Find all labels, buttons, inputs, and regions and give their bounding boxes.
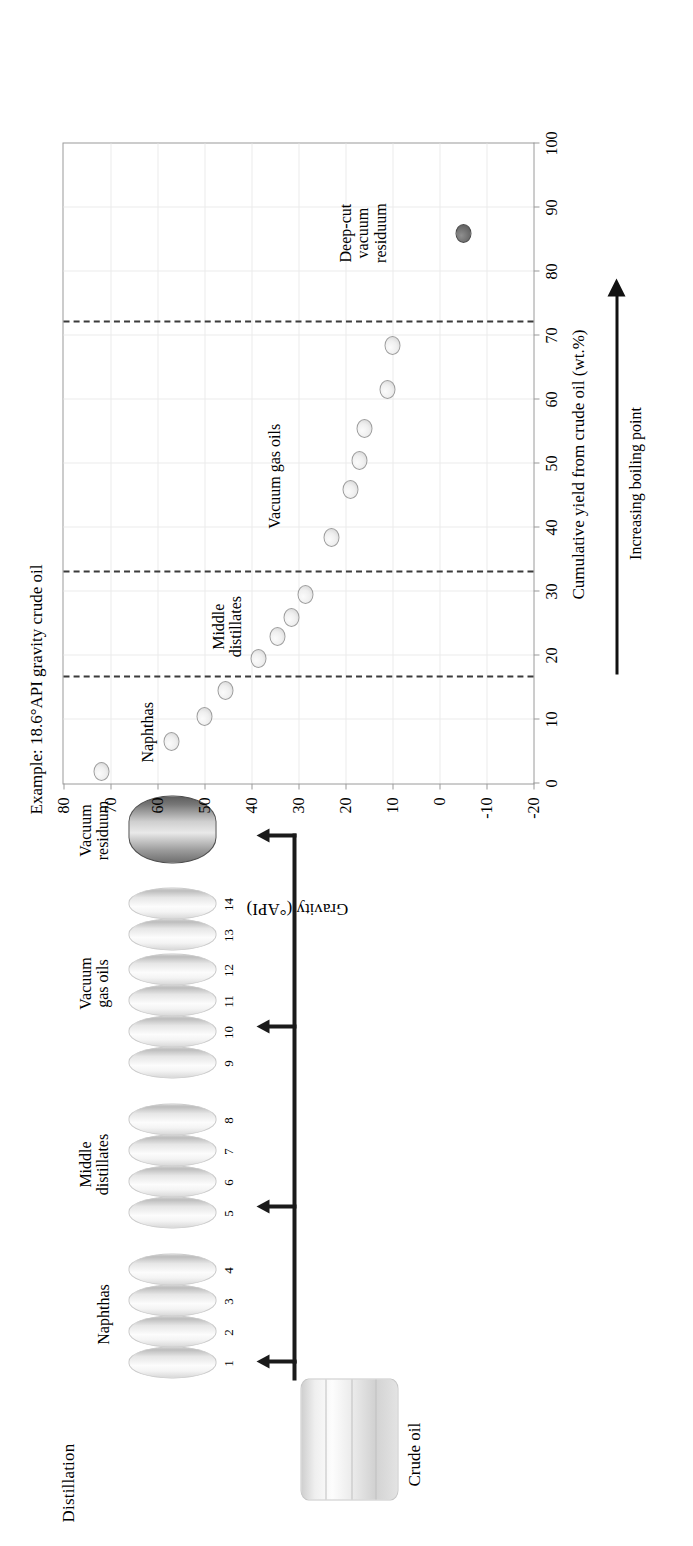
x-axis-tick	[533, 654, 539, 655]
drum-number-8: 8	[220, 1105, 236, 1135]
data-point	[250, 649, 266, 668]
drum-1	[128, 1346, 216, 1378]
x-axis-tick	[533, 590, 539, 591]
y-axis-tick	[157, 783, 158, 789]
x-axis-tick-label: 60	[542, 391, 560, 407]
data-point	[196, 706, 212, 725]
chart-annotation: Deep-cut vacuum residuum	[336, 203, 389, 263]
data-point	[342, 479, 358, 498]
x-axis-tick-label: 0	[542, 779, 560, 787]
boiling-point-label: Increasing boiling point	[626, 407, 644, 560]
y-axis-tick	[110, 783, 111, 789]
drum-number-3: 3	[220, 1286, 236, 1316]
riser-arrow-2	[256, 1199, 269, 1213]
y-axis-tick-label: 10	[383, 797, 401, 813]
grid-line-horizontal	[110, 143, 111, 783]
x-axis-title: Cumulative yield from crude oil (wt.%)	[568, 329, 588, 599]
y-axis-tick-label: 60	[148, 797, 166, 813]
group-label-middle-distillates: Middle distillates	[76, 1088, 111, 1240]
boiling-point-arrow-head	[607, 278, 625, 296]
data-point	[283, 607, 299, 626]
y-axis-tick	[533, 783, 534, 789]
drum-number-5: 5	[220, 1198, 236, 1228]
drum-7	[128, 1134, 216, 1166]
distillation-schematic: Distillation 1 2 3 4 Naphthas	[0, 928, 693, 1528]
drum-6	[128, 1165, 216, 1197]
drum-10	[128, 1015, 216, 1047]
x-axis-tick-label: 70	[542, 327, 560, 343]
riser-pipe-1	[268, 1359, 296, 1363]
chart-plot-area: 010203040506070809010080706050403020100-…	[62, 142, 534, 784]
data-point	[379, 380, 395, 399]
data-point	[455, 223, 471, 242]
y-axis-tick	[486, 783, 487, 789]
drum-number-6: 6	[220, 1167, 236, 1197]
drum-2	[128, 1315, 216, 1347]
figure-page: Distillation 1 2 3 4 Naphthas	[0, 0, 693, 1546]
grid-line-horizontal	[157, 143, 158, 783]
x-axis-tick	[533, 718, 539, 719]
grid-line-horizontal	[486, 143, 487, 783]
x-axis-tick	[533, 142, 539, 143]
gravity-yield-chart: Example: 18.6°API gravity crude oil 0102…	[0, 34, 693, 934]
x-axis-tick	[533, 206, 539, 207]
x-axis-tick-label: 80	[542, 263, 560, 279]
chart-annotation: Naphthas	[138, 702, 156, 762]
x-axis-tick-label: 30	[542, 583, 560, 599]
x-axis-tick	[533, 462, 539, 463]
y-axis-tick-label: 50	[195, 797, 213, 813]
drum-group-naphthas: 1 2 3 4 Naphthas	[128, 1250, 248, 1378]
drum-number-7: 7	[220, 1136, 236, 1166]
drum-3	[128, 1284, 216, 1316]
x-axis-tick-label: 40	[542, 519, 560, 535]
drum-number-12: 12	[220, 955, 236, 985]
grid-line-horizontal	[251, 143, 252, 783]
drum-number-10: 10	[220, 1017, 236, 1047]
x-axis-tick-label: 50	[542, 455, 560, 471]
y-axis-tick-label: 0	[430, 797, 448, 805]
drum-number-9: 9	[220, 1048, 236, 1078]
chart-annotation: Vacuum gas oils	[265, 423, 283, 528]
drum-5	[128, 1196, 216, 1228]
drum-number-2: 2	[220, 1317, 236, 1347]
group-label-naphthas: Naphthas	[94, 1238, 111, 1390]
data-point	[269, 626, 285, 645]
x-axis-tick	[533, 334, 539, 335]
x-axis-tick-label: 10	[542, 711, 560, 727]
grid-line-horizontal	[204, 143, 205, 783]
drum-number-11: 11	[220, 986, 236, 1016]
y-axis-tick-label: 20	[336, 797, 354, 813]
drum-12	[128, 953, 216, 985]
x-axis-tick	[533, 526, 539, 527]
drum-number-4: 4	[220, 1255, 236, 1285]
data-point	[323, 527, 339, 546]
drum-number-1: 1	[220, 1348, 236, 1378]
y-axis-tick	[439, 783, 440, 789]
y-axis-tick-label: -10	[477, 797, 495, 818]
y-axis-tick	[298, 783, 299, 789]
schematic-title: Distillation	[58, 1443, 78, 1522]
grid-line-horizontal	[392, 143, 393, 783]
drum-4	[128, 1253, 216, 1285]
y-axis-tick	[392, 783, 393, 789]
cut-divider-line	[63, 675, 533, 677]
riser-arrow-3	[256, 1019, 269, 1033]
data-point	[297, 585, 313, 604]
increasing-boiling-point-indicator: Increasing boiling point	[606, 254, 650, 674]
data-point	[93, 762, 109, 781]
cut-divider-line	[63, 570, 533, 572]
crude-oil-tank	[300, 1378, 398, 1500]
data-point	[351, 450, 367, 469]
x-axis-tick-label: 20	[542, 647, 560, 663]
chart-title: Example: 18.6°API gravity crude oil	[26, 564, 46, 814]
y-axis-tick	[345, 783, 346, 789]
drum-9	[128, 1046, 216, 1078]
chart-annotation: Middle distillates	[209, 596, 244, 657]
y-axis-tick	[63, 783, 64, 789]
y-axis-title: Gravity (°API)	[246, 898, 348, 918]
riser-pipe-2	[268, 1204, 296, 1208]
y-axis-tick	[251, 783, 252, 789]
drum-11	[128, 984, 216, 1016]
data-point	[217, 681, 233, 700]
rotated-figure-canvas: Distillation 1 2 3 4 Naphthas	[0, 0, 693, 1546]
